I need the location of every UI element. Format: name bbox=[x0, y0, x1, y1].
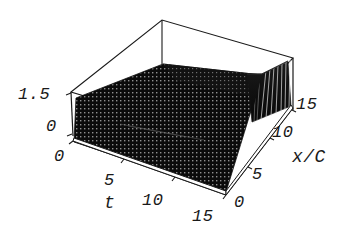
xc-axis-tick-0: 0 bbox=[234, 194, 245, 211]
xc-axis-tick-10: 10 bbox=[272, 124, 293, 141]
surface-plot-figure: 1.5 0 0 5 10 15 t 0 5 10 15 x/C bbox=[0, 0, 343, 238]
z-axis-tick-1-5: 1.5 bbox=[18, 86, 50, 103]
xc-axis-title: x/C bbox=[292, 148, 326, 166]
xc-axis-tick-15: 15 bbox=[296, 96, 317, 113]
t-axis-title: t bbox=[104, 194, 115, 212]
t-axis-tick-15: 15 bbox=[192, 208, 213, 225]
xc-axis-tick-5: 5 bbox=[252, 166, 263, 183]
t-axis-tick-5: 5 bbox=[104, 172, 115, 189]
z-axis-tick-0: 0 bbox=[46, 118, 57, 135]
t-axis-tick-10: 10 bbox=[142, 192, 163, 209]
t-axis-tick-0: 0 bbox=[54, 148, 65, 165]
